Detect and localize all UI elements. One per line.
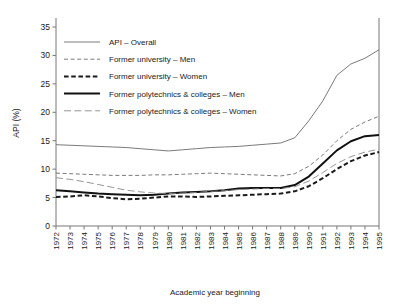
- x-axis-tick-label: 1978: [136, 231, 145, 249]
- y-axis-tick-label: 10: [41, 164, 51, 174]
- x-axis-tick-label: 1972: [52, 231, 61, 249]
- y-axis-label: API (%): [11, 93, 21, 153]
- x-axis-tick-label: 1974: [80, 231, 89, 249]
- data-series-line: [56, 116, 379, 176]
- x-axis-tick-label: 1990: [305, 231, 314, 249]
- legend-label: Former polytechnics & colleges – Women: [109, 107, 256, 116]
- y-axis-tick-label: 35: [41, 22, 51, 32]
- x-axis-tick-label: 1980: [165, 231, 174, 249]
- data-series-line: [56, 135, 379, 195]
- y-axis-tick-label: 20: [41, 107, 51, 117]
- x-axis-tick-label: 1981: [179, 231, 188, 249]
- y-axis-tick-label: 30: [41, 50, 51, 60]
- y-axis-tick-label: 25: [41, 79, 51, 89]
- x-axis-tick-label: 1973: [66, 231, 75, 249]
- x-axis-tick-label: 1995: [375, 231, 384, 249]
- x-axis-tick-label: 1986: [249, 231, 258, 249]
- x-axis-tick-label: 1983: [207, 231, 216, 249]
- data-series-line: [56, 50, 379, 151]
- legend-label: Former university – Women: [109, 72, 207, 81]
- y-axis-tick-label: 0: [45, 221, 50, 231]
- legend-label: API – Overall: [109, 38, 156, 47]
- x-axis-tick-label: 1982: [193, 231, 202, 249]
- chart-svg: 0510152025303519721973197419751976197719…: [0, 0, 393, 308]
- x-axis-tick-label: 1992: [333, 231, 342, 249]
- x-axis-tick-label: 1975: [94, 231, 103, 249]
- x-axis-tick-label: 1989: [291, 231, 300, 249]
- x-axis-tick-label: 1979: [151, 231, 160, 249]
- line-chart: 0510152025303519721973197419751976197719…: [0, 0, 393, 308]
- x-axis-tick-label: 1993: [347, 231, 356, 249]
- y-axis-tick-label: 5: [45, 193, 50, 203]
- legend-label: Former polytechnics & colleges – Men: [109, 90, 245, 99]
- x-axis-tick-label: 1994: [361, 231, 370, 249]
- legend-label: Former university – Men: [109, 55, 195, 64]
- x-axis-label: Academic year beginning: [170, 288, 260, 297]
- x-axis-tick-label: 1976: [108, 231, 117, 249]
- chart-root: 0510152025303519721973197419751976197719…: [0, 0, 393, 308]
- y-axis-tick-label: 15: [41, 136, 51, 146]
- x-axis-tick-label: 1988: [277, 231, 286, 249]
- x-axis-tick-label: 1987: [263, 231, 272, 249]
- x-axis-tick-label: 1977: [122, 231, 131, 249]
- x-axis-tick-label: 1985: [235, 231, 244, 249]
- data-series-line: [56, 152, 379, 199]
- x-axis-tick-label: 1984: [221, 231, 230, 249]
- x-axis-tick-label: 1991: [319, 231, 328, 249]
